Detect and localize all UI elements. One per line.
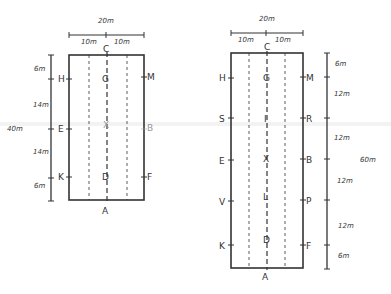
small-marker-X: X (103, 120, 109, 130)
large-marker-P: P (306, 196, 312, 206)
small-marker-C: C (103, 44, 109, 54)
large-marker-V: V (219, 197, 226, 207)
large-marker-M: M (306, 73, 314, 83)
small-half-left-label: 10m (81, 38, 97, 46)
large-seg-5: 12m (338, 222, 354, 230)
small-seg-4: 6m (34, 182, 45, 190)
large-marker-D: D (263, 235, 270, 245)
small-half-right-label: 10m (114, 38, 130, 46)
large-marker-G: G (263, 73, 270, 83)
large-marker-H: H (219, 73, 226, 83)
large-marker-X: X (263, 154, 269, 164)
small-marker-G: G (102, 74, 109, 84)
large-marker-B: B (306, 155, 312, 165)
large-half-left-label: 10m (238, 36, 254, 44)
large-marker-C: C (264, 42, 270, 52)
small-seg-2: 14m (33, 101, 49, 109)
large-seg-2: 12m (334, 90, 350, 98)
small-marker-E: E (58, 124, 64, 134)
large-marker-A: A (262, 272, 269, 282)
large-seg-1: 6m (335, 60, 346, 68)
small-marker-D: D (102, 172, 109, 182)
small-marker-B: B (147, 123, 153, 133)
large-marker-I: I (264, 114, 267, 124)
large-marker-F: F (306, 241, 311, 251)
large-seg-4: 12m (337, 177, 353, 185)
small-marker-F: F (147, 172, 152, 182)
large-marker-S: S (219, 114, 225, 124)
large-arena (228, 30, 330, 270)
small-marker-M: M (147, 72, 155, 82)
large-length-label: 60m (360, 156, 376, 164)
large-marker-L: L (263, 192, 268, 202)
large-seg-3: 12m (334, 134, 350, 142)
large-marker-K: K (219, 241, 226, 251)
small-arena-labels: 20m 10m 10m 40m 6m 14m 14m 6m C A H E K … (7, 17, 155, 216)
arena-diagrams: 20m 10m 10m 40m 6m 14m 14m 6m C A H E K … (0, 0, 391, 294)
large-arena-labels: 20m 10m 10m 60m 6m 12m 12m 12m 12m 6m C … (219, 15, 376, 282)
large-seg-6: 6m (338, 252, 349, 260)
large-half-right-label: 10m (275, 36, 291, 44)
small-marker-H: H (58, 74, 65, 84)
large-width-label: 20m (259, 15, 275, 23)
small-width-label: 20m (98, 17, 114, 25)
small-length-label: 40m (7, 125, 23, 133)
small-seg-1: 6m (34, 65, 45, 73)
small-marker-K: K (58, 172, 65, 182)
large-marker-E: E (219, 156, 225, 166)
small-marker-A: A (102, 206, 109, 216)
small-seg-3: 14m (33, 148, 49, 156)
large-marker-R: R (306, 114, 312, 124)
